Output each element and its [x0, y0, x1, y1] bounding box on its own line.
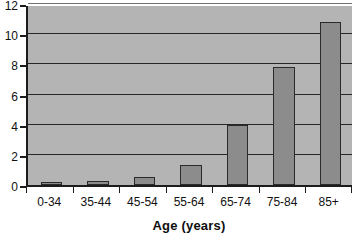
- bar: [134, 177, 155, 185]
- y-tick-label: 2: [11, 151, 18, 163]
- x-tick-label: 65-74: [212, 195, 259, 209]
- x-tick-label: 35-44: [73, 195, 120, 209]
- y-tick-label: 4: [11, 121, 18, 133]
- bar: [227, 125, 248, 185]
- x-tick-mark: [119, 187, 120, 193]
- x-tick-mark: [73, 187, 74, 193]
- x-tick-label: 75-84: [259, 195, 306, 209]
- y-axis: 024681012: [0, 0, 24, 193]
- x-tick-label: 45-54: [119, 195, 166, 209]
- x-tick-mark: [351, 187, 352, 193]
- x-tick-label: 0-34: [26, 195, 73, 209]
- x-tick-mark: [259, 187, 260, 193]
- bar: [273, 67, 294, 185]
- x-tick-mark: [305, 187, 306, 193]
- x-axis-ticks: [26, 187, 352, 193]
- x-tick-label: 55-64: [166, 195, 213, 209]
- x-tick-mark: [26, 187, 27, 193]
- bar: [41, 182, 62, 185]
- gridline-12: [28, 3, 352, 4]
- y-tick-label: 12: [5, 0, 18, 12]
- x-axis-title: Age (years): [26, 218, 352, 233]
- x-axis-labels: 0-3435-4445-5455-6465-7475-8485+: [26, 195, 352, 211]
- bar: [87, 181, 108, 185]
- bar: [180, 165, 201, 185]
- plot-area: [26, 6, 352, 187]
- y-tick-label: 8: [11, 60, 18, 72]
- x-tick-mark: [212, 187, 213, 193]
- x-tick-label: 85+: [305, 195, 352, 209]
- bar-chart: 024681012 0-3435-4445-5455-6465-7475-848…: [0, 0, 363, 244]
- bars-layer: [28, 6, 352, 185]
- y-tick-label: 6: [11, 91, 18, 103]
- bar: [320, 22, 341, 185]
- x-tick-mark: [166, 187, 167, 193]
- y-tick-label: 10: [5, 30, 18, 42]
- y-tick-label: 0: [11, 181, 18, 193]
